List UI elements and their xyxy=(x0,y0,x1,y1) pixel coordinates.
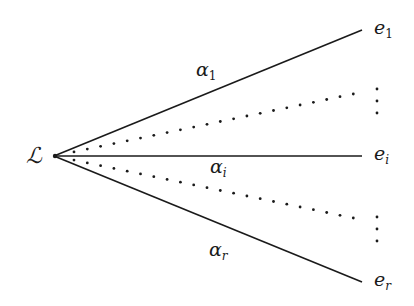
edge-alpha-r xyxy=(54,156,362,282)
upper-dotted-edge xyxy=(73,93,355,154)
lower-vertical-ellipsis xyxy=(376,216,379,243)
fan-diagram xyxy=(0,0,414,306)
target-label-e-i: ei xyxy=(374,144,389,163)
source-vertex xyxy=(53,154,57,158)
edge-label-alpha-1: α1 xyxy=(196,60,216,79)
source-symbol: ℒ xyxy=(26,143,42,168)
target-label-e-r: er xyxy=(374,270,391,289)
edge-alpha-1 xyxy=(54,30,362,156)
edge-label-alpha-i: αi xyxy=(210,157,227,176)
edge-label-alpha-r: αr xyxy=(209,240,228,259)
target-label-e-1: e1 xyxy=(374,18,393,37)
source-label: ℒ xyxy=(26,145,42,167)
upper-vertical-ellipsis xyxy=(376,88,379,115)
